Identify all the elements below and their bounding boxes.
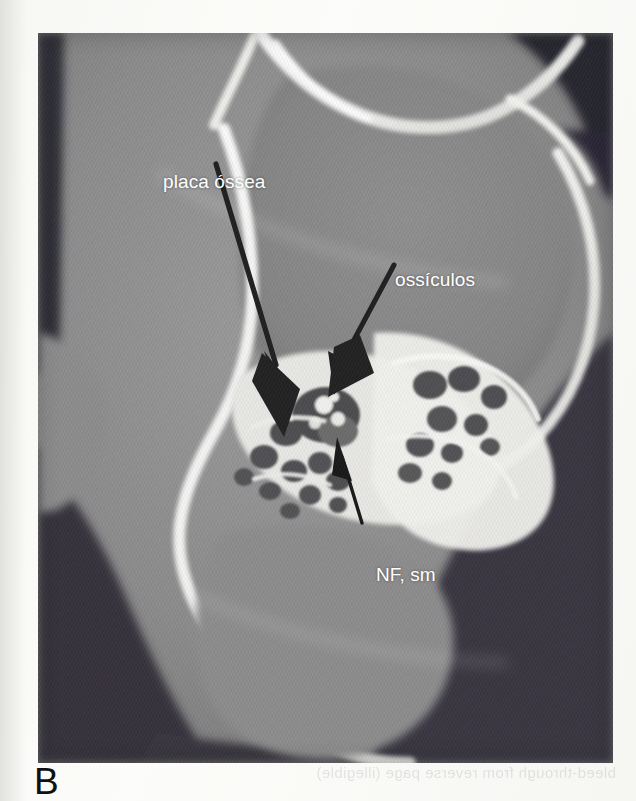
ct-scan-image: placa óssea ossículos NF, sm	[38, 33, 613, 763]
page-gutter-shadow	[0, 0, 26, 801]
bleed-through-text: bleed-through from reverse page (illegib…	[146, 764, 616, 790]
ct-scan-graphic	[38, 33, 613, 763]
annotation-label-nf-sm: NF, sm	[376, 565, 436, 585]
figure-page: bleed-through from reverse page (illegib…	[0, 0, 636, 801]
annotation-label-ossiculos: ossículos	[395, 270, 475, 290]
annotation-label-placa-ossea: placa óssea	[163, 172, 266, 192]
figure-panel-letter: B	[34, 763, 59, 801]
